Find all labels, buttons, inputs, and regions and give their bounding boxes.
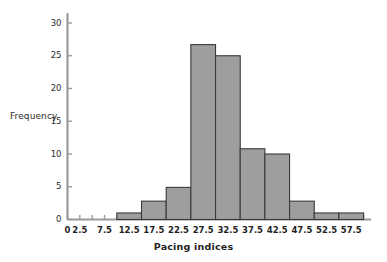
histogram-bar [339,213,364,220]
y-axis-tick-label: 0 [46,215,62,224]
y-axis-tick-label: 10 [46,150,62,159]
y-axis-tick-label: 20 [46,84,62,93]
histogram-bar [191,45,216,220]
histogram-bar [265,154,290,220]
histogram-bar [142,201,167,219]
histogram-bar [240,149,265,220]
x-axis-title: Pacing indices [0,241,387,252]
y-axis-tick-label: 30 [46,19,62,28]
y-axis-tick-label: 15 [46,117,62,126]
x-axis-tick-label: 57.5 [337,226,365,235]
y-axis-tick-label: 5 [46,182,62,191]
histogram-bar [290,201,315,219]
histogram-bar [166,187,191,219]
histogram-bar [216,56,241,220]
histogram-bar [117,213,142,220]
y-axis-tick-label: 25 [46,51,62,60]
histogram-bar [314,213,339,220]
histogram-chart: Frequency Pacing indices 051015202530 02… [0,0,387,262]
bar-series [117,45,364,220]
